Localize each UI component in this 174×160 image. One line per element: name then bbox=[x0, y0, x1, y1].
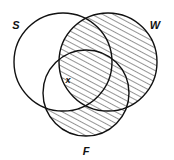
set-label-s: S bbox=[12, 19, 20, 31]
set-label-w: W bbox=[150, 19, 162, 31]
venn-diagram-canvas: S W F x bbox=[0, 0, 174, 160]
venn-diagram-figure: S W F x bbox=[0, 0, 174, 160]
set-label-f: F bbox=[83, 145, 90, 157]
region-label-x: x bbox=[64, 75, 71, 85]
